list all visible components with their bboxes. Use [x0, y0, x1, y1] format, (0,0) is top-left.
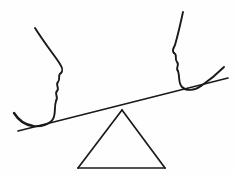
left-lips-path — [56, 73, 61, 101]
line-drawing-svg — [0, 0, 235, 175]
fulcrum-left-edge-path — [78, 110, 122, 168]
fulcrum-triangle — [78, 110, 165, 168]
seesaw-plank — [18, 78, 228, 131]
left-jaw-path — [14, 113, 33, 126]
left-forehead-nose-path — [35, 28, 62, 73]
right-face-profile — [173, 12, 224, 90]
plank-path — [18, 78, 228, 131]
fulcrum-right-edge-path — [122, 110, 165, 168]
illustration-canvas: Two face profiles on a balanced seesaw — [0, 0, 235, 175]
right-forehead-nose-path — [173, 12, 183, 53]
left-face-profile — [14, 28, 62, 126]
right-lips-path — [174, 53, 178, 71]
